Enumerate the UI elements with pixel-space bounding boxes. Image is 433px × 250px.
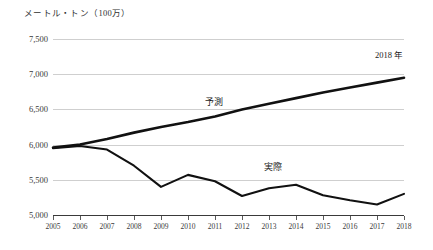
forecast-annotation: 予測 <box>205 95 223 108</box>
forecast-line <box>53 78 404 148</box>
chart-container: メートル・トン（100万） 7,500 7,000 6,500 6,000 5,… <box>0 0 433 250</box>
year-annotation: 2018 年 <box>375 48 403 60</box>
series-layer <box>0 0 433 250</box>
actual-line <box>53 146 404 204</box>
actual-annotation: 実際 <box>264 160 282 173</box>
